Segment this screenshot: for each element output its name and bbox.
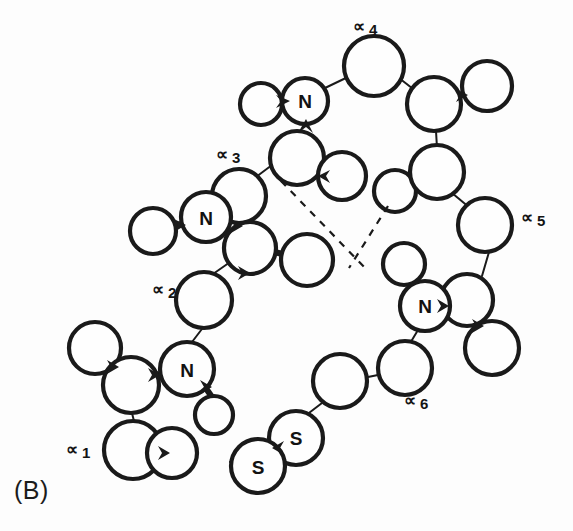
position-label-alpha-1: ∝1: [66, 441, 90, 460]
atom-label-n: N: [298, 91, 312, 112]
alpha-symbol: ∝: [521, 208, 533, 227]
bond: [482, 252, 489, 276]
alpha-index: 6: [420, 395, 428, 412]
atom-circle: [176, 272, 232, 328]
alpha-symbol: ∝: [152, 280, 164, 299]
atom-circle: [195, 396, 233, 434]
atom-layer: [69, 36, 519, 493]
atom-circle: [281, 234, 333, 286]
position-label-alpha-2: ∝2: [152, 281, 176, 300]
atom-circle: [130, 208, 176, 254]
alpha-index: 2: [168, 284, 176, 301]
atom-circle: [407, 77, 461, 131]
atom-label-n: N: [199, 208, 213, 229]
atom-label-n: N: [180, 360, 194, 381]
alpha-index: 1: [82, 444, 90, 461]
alpha-index: 4: [369, 21, 377, 38]
alpha-symbol: ∝: [353, 17, 365, 36]
atom-circle: [383, 243, 425, 285]
atom-label-s: S: [290, 428, 303, 449]
position-label-alpha-3: ∝3: [216, 146, 240, 165]
atom-circle: [147, 428, 197, 478]
figure-panel-b: N N N N S S ∝1 ∝2 ∝3 ∝4 ∝5 ∝6 (B): [0, 0, 573, 531]
atom-circle: [224, 222, 276, 274]
alpha-symbol: ∝: [404, 391, 416, 410]
atom-circle: [465, 321, 519, 375]
position-label-alpha-4: ∝4: [353, 18, 377, 37]
atom-circle: [270, 131, 324, 185]
atom-label-n: N: [418, 296, 432, 317]
atom-circle: [240, 83, 282, 125]
alpha-symbol: ∝: [66, 440, 78, 459]
position-label-alpha-6: ∝6: [404, 392, 428, 411]
atom-circle: [378, 341, 432, 395]
atom-circle: [462, 61, 512, 111]
atom-circle: [344, 36, 404, 96]
atom-label-s: S: [252, 457, 265, 478]
atom-circle: [410, 145, 464, 199]
alpha-symbol: ∝: [216, 145, 228, 164]
atom-circle: [313, 354, 367, 408]
alpha-index: 3: [232, 149, 240, 166]
position-label-alpha-5: ∝5: [521, 209, 545, 228]
atom-circle: [458, 198, 512, 252]
alpha-index: 5: [537, 212, 545, 229]
panel-label: (B): [14, 476, 49, 505]
